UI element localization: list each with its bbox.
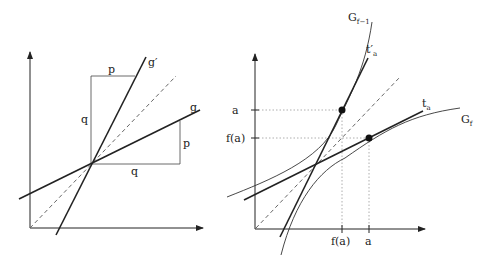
- curve-inverse-label: Gf−1: [348, 11, 370, 26]
- tangent-a-label: ta: [422, 97, 431, 112]
- tangent-a-prime-label: t′a: [366, 43, 377, 58]
- slope-box-g-prime: [91, 76, 135, 163]
- left-panel: g′ g p q p q: [19, 52, 203, 235]
- line-g-prime: [56, 57, 146, 235]
- line-g-prime-label: g′: [148, 56, 158, 69]
- right-panel: Gf−1 t′a ta Gf a f(a) f(a) a: [226, 11, 474, 255]
- tangent-t-a: [244, 111, 423, 200]
- box-left-label: q: [81, 113, 88, 126]
- box-right-label: p: [183, 137, 190, 150]
- line-g-label: g: [190, 101, 197, 114]
- point-on-g-f: [366, 135, 373, 142]
- diagram-canvas: g′ g p q p q Gf−1 t′a ta Gf: [0, 0, 493, 266]
- box-bottom-label: q: [131, 165, 138, 178]
- curve-f-label: Gf: [461, 113, 474, 128]
- tangent-t-a-prime: [280, 58, 368, 237]
- curve-g-f-inverse: [227, 22, 372, 197]
- identity-diagonal: [256, 77, 400, 228]
- y-tick-fa-label: f(a): [226, 132, 245, 145]
- y-tick-a-label: a: [232, 104, 239, 117]
- x-tick-fa-label: f(a): [331, 235, 350, 248]
- line-g: [19, 110, 200, 199]
- box-top-label: p: [108, 63, 115, 76]
- identity-diagonal: [30, 76, 176, 228]
- x-tick-a-label: a: [365, 235, 372, 248]
- point-on-g-f-inverse: [339, 107, 346, 114]
